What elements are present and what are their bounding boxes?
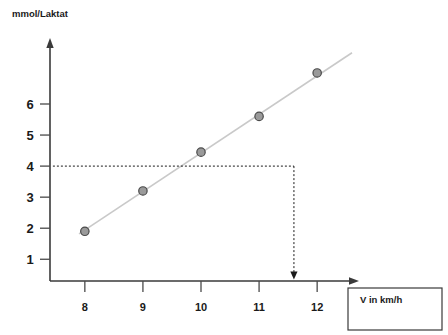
x-tick-label: 10	[195, 301, 207, 313]
y-tick-label: 3	[26, 190, 33, 205]
data-point	[81, 227, 89, 235]
threshold-arrowhead	[290, 271, 297, 279]
trend-line	[79, 53, 352, 234]
data-point	[197, 148, 205, 156]
lactate-threshold-chart: mmol/Laktat 654321 89101112 V in km/h	[0, 0, 448, 335]
y-tick-label: 1	[26, 252, 33, 267]
threshold-guides	[53, 166, 298, 279]
axis-lines	[46, 38, 359, 285]
chart-canvas: mmol/Laktat 654321 89101112 V in km/h	[0, 0, 448, 335]
data-point	[313, 69, 321, 77]
x-tick-label: 9	[140, 301, 146, 313]
x-tick-label: 11	[253, 301, 265, 313]
data-point	[139, 187, 147, 195]
x-axis-ticks: 89101112	[82, 281, 323, 313]
y-axis-ticks: 654321	[26, 97, 50, 267]
x-tick-label: 12	[311, 301, 323, 313]
data-points	[81, 69, 322, 236]
x-tick-label: 8	[82, 301, 88, 313]
x-axis-title: V in km/h	[360, 294, 402, 305]
x-axis-label-box: V in km/h	[348, 288, 442, 330]
y-axis-title: mmol/Laktat	[12, 8, 69, 19]
x-axis-arrowhead	[349, 277, 359, 284]
y-axis-arrowhead	[46, 38, 53, 48]
y-tick-label: 5	[26, 128, 33, 143]
y-tick-label: 4	[26, 159, 34, 174]
y-tick-label: 2	[26, 221, 33, 236]
data-point	[255, 112, 263, 120]
y-tick-label: 6	[26, 97, 33, 112]
